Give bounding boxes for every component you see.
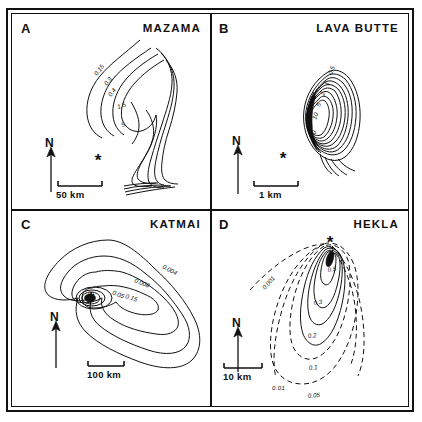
contour-line-dashed [332, 246, 364, 376]
contour-label: 0.3 [102, 75, 113, 87]
north-label-a: N [45, 136, 54, 150]
map-lava-butte: 0.5 1 2 5 10 20 * [210, 14, 408, 210]
panel-katmai: C KATMAI 0.004 0.008 0.05 0 [12, 210, 210, 406]
contour-line [121, 60, 164, 187]
contour-label: 0.05 [307, 391, 320, 399]
scale-label-b: 1 km [259, 189, 282, 200]
contour-line [113, 54, 158, 135]
contour-label: 0.15 [125, 292, 139, 303]
contour-label: 0.008 [134, 276, 151, 289]
vent-marker: * [88, 289, 95, 308]
contour-label: 0.1 [308, 363, 317, 371]
contour-label: 0.3 [313, 298, 323, 306]
contour-label: 0.004 [162, 263, 179, 277]
contour-label: 0.15 [92, 62, 105, 76]
scale-label-c: 100 km [87, 369, 121, 380]
contour-label: 0.5 [327, 265, 337, 273]
contour-label: 10 [310, 111, 319, 120]
panel-mazama: A MAZAMA [12, 14, 210, 210]
contour-line [320, 154, 332, 174]
contour-label: 0.05 [112, 288, 126, 299]
contour-label: 5 [120, 120, 126, 128]
contour-line [162, 60, 178, 184]
vent-marker: * [327, 233, 334, 252]
contour-label: 0.2 [307, 331, 317, 339]
panel-grid: A MAZAMA [12, 14, 408, 406]
panel-lava-butte: B LAVA BUTTE [210, 14, 408, 210]
contour-line [137, 110, 156, 183]
scale-label-a: 50 km [56, 189, 84, 200]
north-label-c: N [50, 310, 59, 324]
north-label-d: N [232, 316, 241, 330]
contour-line [331, 159, 347, 175]
north-label-b: N [232, 134, 241, 148]
vent-marker: * [95, 151, 102, 170]
vent-marker: * [280, 149, 287, 168]
contour-label: 1.5 [116, 100, 127, 109]
contour-line [338, 159, 355, 171]
map-mazama: 0.15 0.3 0.4 1.5 5 * [12, 14, 210, 210]
contour-label-0-01: 0.01 [272, 384, 285, 391]
contour-line [126, 187, 175, 195]
contour-line [131, 102, 139, 144]
contour-line-dashed [250, 244, 324, 290]
contour-line [148, 48, 172, 188]
figure-root: A MAZAMA [0, 0, 422, 422]
panel-hekla: D HEKLA [210, 210, 408, 406]
scale-label-d: 10 km [223, 371, 251, 382]
